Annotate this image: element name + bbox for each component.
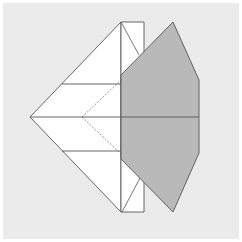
- origami-diagram: [0, 0, 242, 242]
